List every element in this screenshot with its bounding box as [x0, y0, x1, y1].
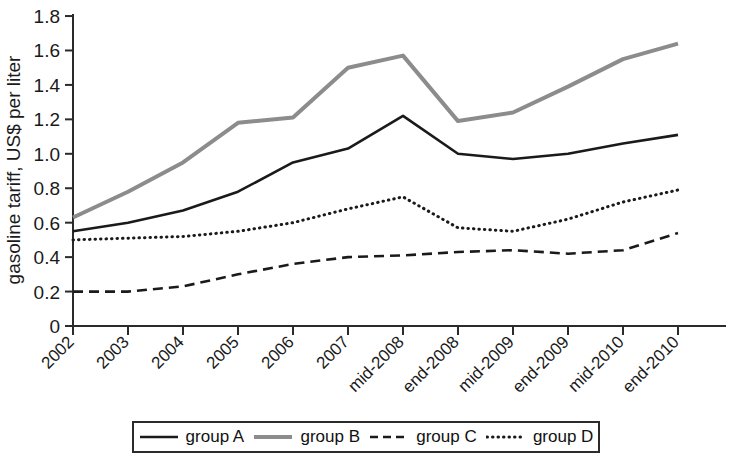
- y-axis-title: gasoline tariff, US$ per liter: [3, 55, 24, 284]
- x-tick-label: end-2009: [509, 332, 573, 396]
- y-tick-label: 1.0: [34, 144, 60, 165]
- legend-label-group-b: group B: [300, 427, 360, 447]
- x-tick-label: end-2008: [399, 332, 463, 396]
- y-axis-title-text: gasoline tariff, US$ per liter: [3, 55, 24, 284]
- y-tick-label: 0.6: [34, 213, 60, 234]
- x-tick-label: 2002: [38, 332, 78, 372]
- x-tick-label: 2006: [258, 332, 298, 372]
- legend-label-group-d: group D: [533, 427, 593, 447]
- legend-item-group-a[interactable]: group A: [139, 427, 245, 447]
- legend-label-group-c: group C: [416, 427, 476, 447]
- legend: group A group B group C group D: [132, 421, 600, 453]
- legend-swatch-group-a-icon: [139, 431, 179, 443]
- y-tick-label: 0.4: [34, 247, 61, 268]
- y-tick-label: 1.8: [34, 6, 60, 27]
- x-tick-label: 2003: [93, 332, 133, 372]
- x-tick-label: mid-2009: [454, 332, 518, 396]
- y-tick-label: 0.8: [34, 178, 60, 199]
- x-tick-label: 2007: [313, 332, 353, 372]
- series-line-group-c: [73, 233, 678, 292]
- x-tick-label: 2004: [148, 332, 188, 372]
- x-tick-label: 2005: [203, 332, 243, 372]
- x-tick-label: mid-2010: [564, 332, 628, 396]
- y-tick-label: 1.6: [34, 40, 60, 61]
- legend-swatch-group-c-icon: [369, 431, 409, 443]
- y-tick-label: 1.2: [34, 109, 60, 130]
- x-tick-label: end-2010: [619, 332, 683, 396]
- legend-swatch-group-d-icon: [486, 431, 526, 443]
- y-axis-ticks: 00.20.40.60.81.01.21.41.61.8: [34, 6, 73, 337]
- legend-item-group-b[interactable]: group B: [253, 427, 360, 447]
- data-series-layer: [73, 44, 678, 292]
- gasoline-tariff-line-chart: gasoline tariff, US$ per liter 00.20.40.…: [0, 0, 732, 461]
- chart-page: gasoline tariff, US$ per liter 00.20.40.…: [0, 0, 732, 461]
- y-tick-label: 1.4: [34, 75, 61, 96]
- y-tick-label: 0.2: [34, 282, 60, 303]
- x-tick-label: mid-2008: [344, 332, 408, 396]
- legend-swatch-group-b-icon: [253, 431, 293, 443]
- legend-item-group-d[interactable]: group D: [486, 427, 593, 447]
- x-axis-ticks: 200220032004200520062007mid-2008end-2008…: [38, 326, 683, 397]
- legend-label-group-a: group A: [186, 427, 245, 447]
- legend-item-group-c[interactable]: group C: [369, 427, 476, 447]
- series-line-group-b: [73, 44, 678, 218]
- y-tick-label: 0: [49, 316, 60, 337]
